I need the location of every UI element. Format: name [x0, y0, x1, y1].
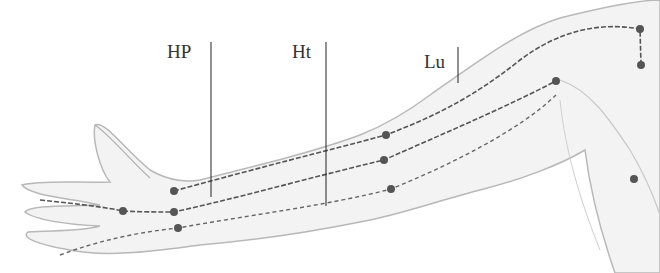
acupoint [174, 224, 182, 232]
label-ht: Ht [292, 42, 311, 61]
arm-illustration [0, 0, 660, 273]
acupoint [382, 131, 390, 139]
acupoint [170, 187, 178, 195]
label-lu: Lu [424, 52, 445, 71]
acupoint [630, 175, 638, 183]
acupoint [552, 77, 560, 85]
acupoint [636, 25, 644, 33]
arm-outline [22, 0, 660, 273]
acupoint [387, 185, 395, 193]
acupoint [119, 207, 127, 215]
acupoint [637, 61, 645, 69]
acupoint [380, 156, 388, 164]
arm-meridian-diagram: HP Ht Lu [0, 0, 660, 273]
label-hp: HP [167, 42, 191, 61]
acupoint [170, 208, 178, 216]
